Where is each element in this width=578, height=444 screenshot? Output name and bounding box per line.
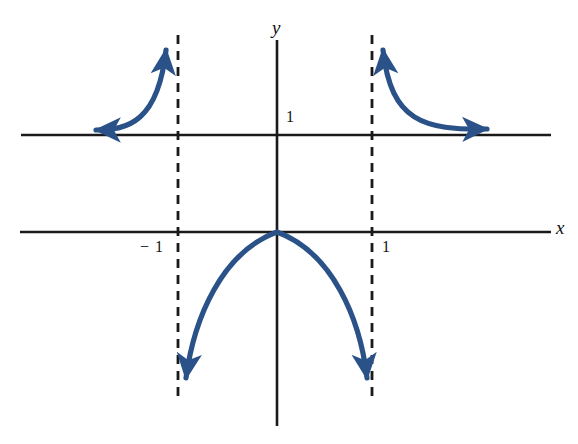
curve-left-branch xyxy=(96,50,166,130)
x-axis-label: x xyxy=(556,218,564,237)
y-tick-label-1: 1 xyxy=(286,109,294,125)
x-tick-label-1: 1 xyxy=(382,239,390,255)
y-axis-label: y xyxy=(272,18,280,37)
graph-figure: y x 1 − 1 1 xyxy=(0,0,578,444)
x-tick-label-negative-1: − 1 xyxy=(140,239,164,255)
plot-canvas xyxy=(0,0,578,444)
curve-right-branch xyxy=(383,50,487,129)
